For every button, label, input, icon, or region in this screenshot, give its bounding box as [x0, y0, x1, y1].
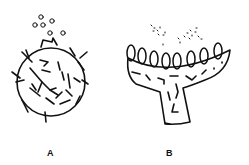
- panel-label-a: A: [47, 148, 54, 158]
- spore-dots: [151, 25, 202, 45]
- figure-a-sphere: [12, 15, 88, 122]
- diagram-canvas: [0, 0, 249, 165]
- spore-circles: [33, 15, 65, 35]
- panel-label-b: B: [166, 148, 173, 158]
- ascus-sacs: [127, 43, 222, 69]
- figure-b-cup: [127, 25, 230, 124]
